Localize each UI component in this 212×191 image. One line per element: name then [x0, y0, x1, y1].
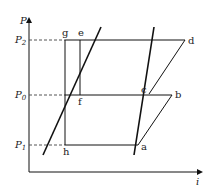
point-h-label: h — [63, 146, 70, 157]
saturated-liquid-curve — [43, 27, 101, 155]
p0-label: P0 — [14, 89, 27, 102]
p2-label: P2 — [14, 34, 27, 47]
point-d-label: d — [188, 35, 195, 46]
point-c-label: c — [141, 84, 147, 95]
line-a-b — [138, 95, 172, 145]
x-axis-label: i — [196, 176, 199, 187]
point-b-label: b — [175, 89, 181, 100]
ph-diagram: P i P2 P0 P1 g e d c b f h a — [0, 0, 212, 191]
point-f-label: f — [78, 96, 83, 107]
point-g-label: g — [62, 27, 69, 38]
point-e-label: e — [78, 27, 84, 38]
y-axis-label: P — [19, 15, 27, 26]
point-a-label: a — [141, 141, 147, 152]
line-c-d — [149, 40, 185, 94]
p1-label: P1 — [14, 139, 26, 152]
